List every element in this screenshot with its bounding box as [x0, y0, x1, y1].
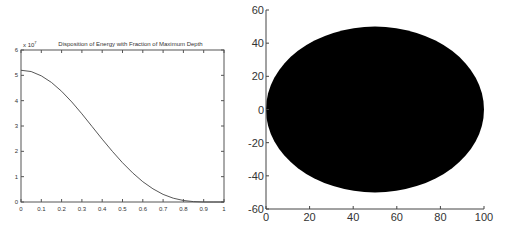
x-tick-label: 60	[391, 211, 403, 223]
y-tick-label: 6	[15, 47, 19, 53]
x-tick-label: 0.7	[159, 206, 168, 212]
y-tick-label: 60	[252, 4, 264, 16]
y-tick-label: 4	[15, 98, 19, 104]
x-tick-label: 80	[434, 211, 446, 223]
energy-depth-chart: Disposition of Energy with Fraction of M…	[15, 40, 227, 212]
x-tick-label: 0.6	[139, 206, 148, 212]
y-tick-label: 20	[252, 70, 264, 82]
y-multiplier-label: x 107	[23, 40, 37, 48]
y-tick-label: -20	[248, 137, 264, 149]
y-tick-label: -40	[248, 170, 264, 182]
y-tick-label: 0	[15, 199, 19, 205]
y-tick-label: 3	[15, 123, 19, 129]
x-tick-label: 0.9	[200, 206, 209, 212]
energy-line	[21, 70, 224, 202]
x-tick-label: 0.2	[57, 206, 66, 212]
chart-canvas: Disposition of Energy with Fraction of M…	[0, 0, 506, 234]
plot-frame	[21, 50, 224, 202]
y-tick-label: -60	[248, 203, 264, 215]
y-tick-label: 5	[15, 72, 19, 78]
y-tick-label: 1	[15, 174, 19, 180]
x-tick-label: 0	[19, 206, 23, 212]
x-tick-label: 0.8	[179, 206, 188, 212]
x-tick-label: 40	[347, 211, 359, 223]
ellipse-scatter-chart: 020406080100-60-40-200204060	[248, 4, 493, 223]
chart-title: Disposition of Energy with Fraction of M…	[58, 41, 202, 47]
x-tick-label: 0.4	[98, 206, 107, 212]
x-tick-label: 0.1	[37, 206, 46, 212]
x-tick-label: 100	[475, 211, 493, 223]
y-tick-label: 40	[252, 37, 264, 49]
x-tick-label: 0.5	[118, 206, 127, 212]
x-tick-label: 20	[303, 211, 315, 223]
y-tick-label: 2	[15, 148, 19, 154]
x-tick-label: 1	[222, 206, 226, 212]
filled-ellipse	[266, 27, 484, 193]
y-tick-label: 0	[258, 104, 264, 116]
x-tick-label: 0.3	[78, 206, 87, 212]
